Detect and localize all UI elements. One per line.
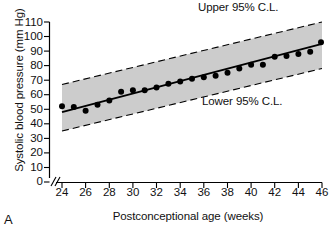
data-point (118, 89, 124, 95)
x-tick-24: 24 (51, 186, 73, 198)
data-point (272, 54, 278, 60)
data-point (142, 87, 148, 93)
data-point (83, 108, 89, 114)
data-point (213, 73, 219, 79)
x-tick-36: 36 (193, 186, 215, 198)
data-point (106, 98, 112, 104)
axis-break-icon (51, 177, 60, 186)
x-tick-42: 42 (264, 186, 286, 198)
x-tick-46: 46 (311, 186, 333, 198)
data-point (177, 79, 183, 85)
x-tick-30: 30 (122, 186, 144, 198)
x-axis-label: Postconceptional age (weeks) (52, 210, 324, 222)
x-axis-tick-labels: 24 26 28 30 32 34 36 38 40 42 44 46 (0, 186, 326, 204)
data-point (189, 76, 195, 82)
x-tick-34: 34 (169, 186, 191, 198)
data-point (225, 70, 231, 76)
x-tick-38: 38 (217, 186, 239, 198)
data-point (59, 103, 65, 109)
data-point (295, 51, 301, 57)
data-point (201, 74, 207, 80)
x-tick-32: 32 (146, 186, 168, 198)
data-point (95, 102, 101, 108)
x-tick-28: 28 (98, 186, 120, 198)
x-tick-44: 44 (287, 186, 309, 198)
data-point (165, 81, 171, 87)
x-tick-26: 26 (75, 186, 97, 198)
data-point (318, 39, 324, 45)
data-point (260, 62, 266, 68)
data-point (248, 62, 254, 68)
upper-cl-label: Upper 95% C.L. (198, 1, 278, 13)
data-point (307, 49, 313, 55)
data-point (284, 53, 290, 59)
data-point (71, 104, 77, 110)
data-point (236, 66, 242, 72)
y-axis-ticks (44, 22, 50, 182)
x-tick-40: 40 (240, 186, 262, 198)
data-point (130, 87, 136, 93)
data-point (154, 84, 160, 90)
panel-letter: A (4, 212, 13, 227)
lower-cl-label: Lower 95% C.L. (202, 95, 282, 107)
